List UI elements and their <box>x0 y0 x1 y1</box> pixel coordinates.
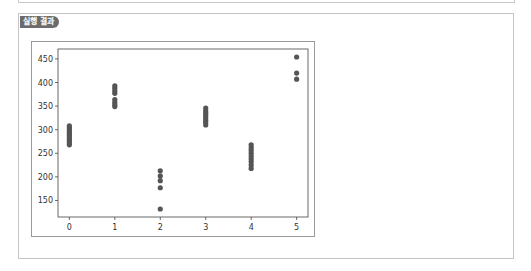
data-point <box>158 206 163 211</box>
y-tick-label: 150 <box>38 196 53 205</box>
y-tick-label: 200 <box>38 173 53 182</box>
y-tick-label: 300 <box>38 126 53 135</box>
data-point <box>112 91 117 96</box>
data-point <box>67 123 72 128</box>
data-point <box>112 104 117 109</box>
x-tick-label: 4 <box>249 223 254 232</box>
x-tick-label: 2 <box>158 223 163 232</box>
data-point <box>158 168 163 173</box>
x-tick-label: 1 <box>112 223 117 232</box>
scatter-plot: 150200250300350400450012345 <box>32 42 314 236</box>
plot-figure: 150200250300350400450012345 <box>31 41 315 237</box>
x-tick-label: 3 <box>203 223 208 232</box>
data-point <box>203 105 208 110</box>
y-tick-label: 400 <box>38 79 53 88</box>
data-point <box>294 70 299 75</box>
x-tick-label: 0 <box>67 223 72 232</box>
data-point <box>158 178 163 183</box>
data-point <box>294 77 299 82</box>
previous-code-block <box>18 0 515 3</box>
data-point <box>294 54 299 59</box>
data-point <box>158 185 163 190</box>
data-point <box>158 173 163 178</box>
x-tick-label: 5 <box>294 223 299 232</box>
execution-result-panel: 실행 결과 150200250300350400450012345 <box>18 13 514 259</box>
result-label-badge: 실행 결과 <box>20 16 59 28</box>
y-tick-label: 450 <box>38 55 53 64</box>
y-tick-label: 350 <box>38 102 53 111</box>
data-point <box>249 142 254 147</box>
y-tick-label: 250 <box>38 149 53 158</box>
axes-frame <box>58 49 308 217</box>
